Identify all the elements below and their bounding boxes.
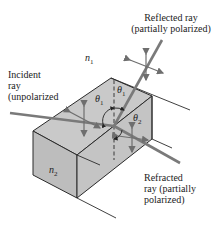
- incident-label-line1: Incident: [8, 69, 59, 80]
- refracted-label-line2: ray (partially: [144, 183, 196, 194]
- refracted-label-line3: polarized): [144, 194, 196, 205]
- n1-subscript: 1: [90, 58, 94, 66]
- incident-ray-label: Incident ray (unpolarized: [8, 69, 59, 102]
- theta1-incident-symbol: θ1: [95, 93, 103, 107]
- incident-label-line2: ray: [8, 80, 59, 91]
- n2-subscript: 2: [54, 170, 58, 178]
- theta2-symbol: θ2: [133, 112, 141, 126]
- refracted-ray-label: Refracted ray (partially polarized): [144, 172, 196, 205]
- incident-label-line3: (unpolarized: [8, 91, 59, 102]
- reflected-ray-label: Reflected ray (partially polarized): [126, 12, 216, 34]
- reflected-label-line1: Reflected ray: [126, 12, 216, 23]
- theta1-reflected-symbol: θ1: [117, 84, 125, 98]
- n2-symbol: n2: [49, 164, 58, 178]
- theta1-reflected-subscript: 1: [122, 90, 126, 98]
- interface-line-bottom: [77, 198, 116, 218]
- reflected-label-line2: (partially polarized): [126, 23, 216, 34]
- n1-symbol: n1: [85, 52, 94, 66]
- theta2-subscript: 2: [138, 118, 142, 126]
- interface-line-right: [152, 139, 172, 148]
- theta1-incident-subscript: 1: [100, 99, 104, 107]
- refracted-label-line1: Refracted: [144, 172, 196, 183]
